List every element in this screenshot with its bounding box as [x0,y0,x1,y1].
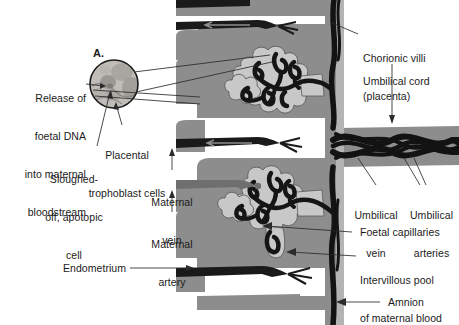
label-endometrium: Endometrium [0,262,126,275]
label-sloughed-off-apoptotic-cell-line3: cell [22,249,126,262]
label-sloughed-off-apoptotic-cell-line2: off, apotopic [22,211,126,224]
label-umbilical-arteries-line1: Umbilical [404,209,459,222]
label-maternal-artery-line2: artery [128,276,216,289]
inset-micrograph [90,60,140,108]
label-maternal-vein-line1: Maternal [128,196,216,209]
label-chorionic-villi-line2: (placenta) [363,90,459,103]
label-foetal-capillaries: Foetal capillaries [360,226,459,239]
label-amnion: Amnion [388,296,459,309]
label-intervillous-pool-line2: of maternal blood [360,312,459,325]
label-umbilical-vein-line1: Umbilical [347,209,405,222]
label-intervillous-pool: Intervillous pool of maternal blood [360,249,459,325]
label-umbilical-cord: Umbilical cord [363,75,459,88]
label-intervillous-pool-line1: Intervillous pool [360,274,459,287]
label-maternal-artery-line1: Maternal [128,238,216,251]
label-maternal-artery: Maternal artery [128,213,216,314]
panel-marker-a: A. [93,47,104,60]
diagram-canvas: A. Release of foetal DNA into maternal b… [0,0,459,325]
label-sloughed-off-apoptotic-cell-line1: Sloughed- [22,173,126,186]
label-chorionic-villi-line1: Chorionic villi [363,52,459,65]
label-release-foetal-dna-line1: Release of [0,92,86,105]
